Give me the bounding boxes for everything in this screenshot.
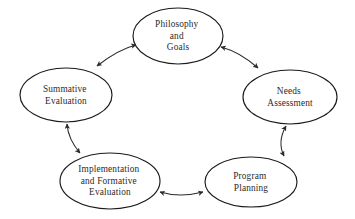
node-program-planning-shape: [205, 157, 297, 207]
label-line: Goals: [167, 42, 190, 52]
label-line: Assessment: [267, 98, 313, 108]
node-needs-assessment-shape: [243, 70, 337, 124]
node-summative-evaluation-shape: [20, 68, 112, 122]
cycle-diagram-canvas: Philosophy and Goals Needs Assessment Pr…: [0, 0, 355, 219]
label-line: Evaluation: [45, 96, 87, 106]
label-line: Summative: [43, 84, 87, 94]
connector-program-to-implementation: [160, 192, 203, 195]
label-line: Implementation: [78, 164, 139, 174]
node-program-planning: Program Planning: [205, 157, 297, 207]
connector-needs-to-program: [281, 126, 286, 156]
connector-philosophy-to-needs: [221, 47, 258, 68]
node-needs-assessment: Needs Assessment: [243, 70, 337, 124]
node-summative-evaluation: Summative Evaluation: [20, 68, 112, 122]
label-line: and: [170, 31, 184, 41]
label-line: Philosophy: [155, 19, 199, 29]
connector-implementation-to-summative: [67, 124, 80, 153]
label-line: Planning: [234, 183, 268, 193]
label-line: and Formative: [81, 176, 137, 186]
connector-summative-to-philosophy: [97, 45, 136, 66]
cycle-diagram: Philosophy and Goals Needs Assessment Pr…: [0, 0, 355, 219]
node-philosophy-and-goals: Philosophy and Goals: [133, 8, 223, 64]
node-implementation-and-formative-evaluation: Implementation and Formative Evaluation: [60, 153, 160, 209]
label-line: Needs: [277, 86, 301, 96]
label-line: Evaluation: [89, 187, 131, 197]
label-line: Program: [233, 171, 267, 181]
